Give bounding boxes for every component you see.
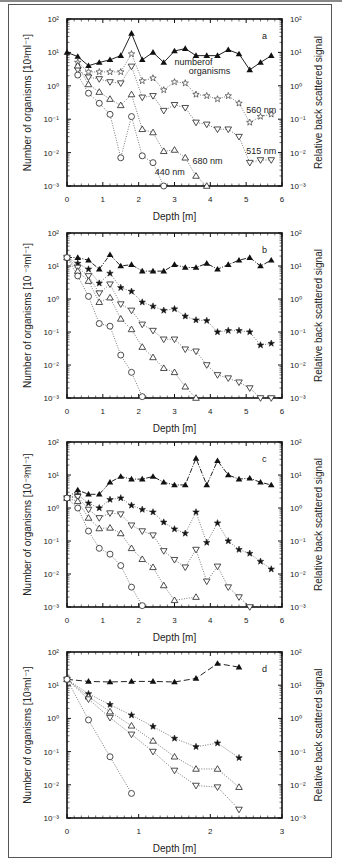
data-point xyxy=(150,94,157,100)
y-right-tick-label: 10⁰ xyxy=(290,504,302,513)
data-point xyxy=(128,502,134,508)
x-tick-label: 0 xyxy=(65,407,70,416)
data-point xyxy=(85,266,91,272)
data-point xyxy=(96,291,103,297)
y-right-tick-label: 10⁰ xyxy=(290,295,302,304)
data-point xyxy=(96,321,102,327)
data-point xyxy=(128,64,135,70)
data-point xyxy=(257,263,264,269)
panel-c: 10²10²10¹10¹10⁰10⁰10⁻¹10⁻¹10⁻²10⁻²10⁻³10… xyxy=(22,438,324,643)
y-tick-label: 10² xyxy=(47,15,59,24)
data-point xyxy=(64,676,70,682)
data-point xyxy=(107,282,114,288)
data-point xyxy=(118,563,124,569)
data-point xyxy=(85,500,91,506)
y-tick-label: 10⁻² xyxy=(43,570,59,579)
data-point xyxy=(139,57,146,63)
data-point xyxy=(268,158,275,164)
data-point xyxy=(129,369,135,375)
data-point xyxy=(139,268,146,274)
data-point xyxy=(268,340,274,346)
data-point xyxy=(96,516,103,522)
x-tick-label: 2 xyxy=(136,195,141,204)
data-point xyxy=(193,349,200,355)
data-point xyxy=(193,783,200,789)
data-point xyxy=(117,316,124,322)
data-point xyxy=(161,307,167,313)
y-axis-label: Number of organisms [10⁻³ml⁻¹] xyxy=(22,453,33,595)
data-point xyxy=(139,322,146,328)
y-tick-label: 10⁻³ xyxy=(43,182,59,191)
data-point xyxy=(139,394,145,400)
data-point xyxy=(107,754,113,760)
data-point xyxy=(75,72,81,78)
x-tick-label: 6 xyxy=(280,195,285,204)
data-point xyxy=(160,582,167,588)
y-tick-label: 10⁻¹ xyxy=(43,115,59,124)
data-point xyxy=(117,302,124,308)
data-point xyxy=(246,67,253,73)
data-point xyxy=(107,111,113,117)
x-tick-label: 3 xyxy=(280,827,285,836)
data-point xyxy=(85,278,92,284)
data-point xyxy=(139,126,146,132)
data-point xyxy=(107,551,113,557)
data-point xyxy=(214,457,221,463)
y-right-tick-label: 10⁻² xyxy=(290,361,306,370)
data-point xyxy=(128,288,134,294)
y-tick-label: 10¹ xyxy=(47,681,59,690)
data-point xyxy=(85,69,91,75)
y-tick-label: 10⁻³ xyxy=(43,814,59,823)
data-point xyxy=(214,127,221,133)
data-point xyxy=(139,506,145,512)
x-tick-label: 3 xyxy=(172,616,177,625)
data-point xyxy=(171,147,178,153)
data-point xyxy=(150,533,157,539)
data-point xyxy=(268,566,274,572)
data-point xyxy=(118,155,124,161)
data-point xyxy=(128,732,135,738)
data-point xyxy=(161,183,167,189)
data-point xyxy=(182,313,188,319)
data-point xyxy=(107,525,114,531)
data-point xyxy=(236,327,242,333)
data-point xyxy=(129,584,135,590)
data-point xyxy=(160,365,167,371)
y-tick-label: 10² xyxy=(47,648,59,657)
data-point xyxy=(86,528,92,534)
data-point xyxy=(129,114,135,120)
series-440-nm xyxy=(64,495,145,609)
x-axis-label: Depth [m] xyxy=(153,423,197,434)
y-right-tick-label: 10⁻³ xyxy=(290,182,306,191)
y-tick-label: 10⁻² xyxy=(43,361,59,370)
data-point xyxy=(139,95,146,101)
data-point xyxy=(150,738,157,744)
data-point xyxy=(117,512,124,518)
data-point xyxy=(129,790,135,796)
data-point xyxy=(85,507,92,513)
series-560-nm xyxy=(64,491,275,571)
data-point xyxy=(107,479,114,485)
data-point xyxy=(139,153,145,159)
y-tick-label: 10¹ xyxy=(47,48,59,57)
data-point xyxy=(139,556,146,562)
y-right-axis-label: Relative back scattered signal xyxy=(313,249,324,382)
data-point xyxy=(117,473,124,479)
y-tick-label: 10⁻³ xyxy=(43,603,59,612)
data-point xyxy=(257,342,263,348)
data-point xyxy=(193,547,200,553)
data-point xyxy=(128,91,135,97)
y-tick-label: 10⁻³ xyxy=(43,394,59,403)
x-tick-label: 6 xyxy=(280,616,285,625)
data-point xyxy=(236,807,243,813)
series-annotation: 515 nm xyxy=(246,146,276,156)
data-point xyxy=(171,102,178,108)
data-point xyxy=(193,173,200,179)
data-point xyxy=(171,261,178,267)
y-right-tick-label: 10⁻¹ xyxy=(290,537,306,546)
data-point xyxy=(160,108,167,114)
data-point xyxy=(214,660,221,666)
series-number-of-organisms xyxy=(64,30,275,72)
data-point xyxy=(236,134,243,140)
data-point xyxy=(74,254,81,260)
